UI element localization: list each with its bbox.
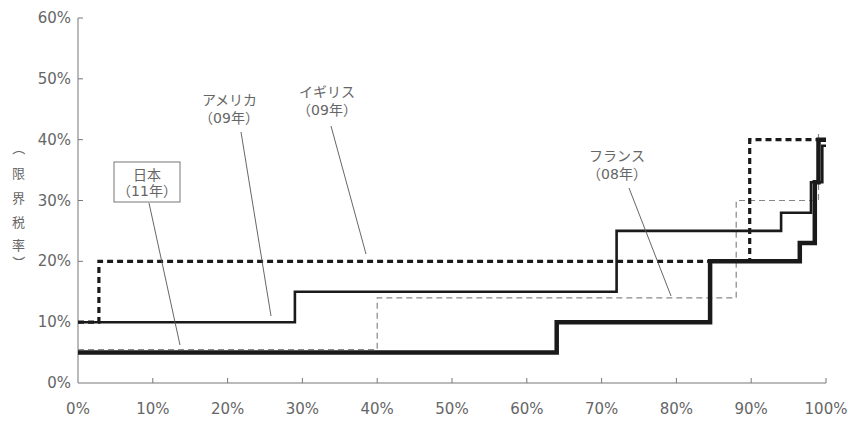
- y-tick-label: 60%: [38, 9, 71, 27]
- y-label-char: （: [11, 142, 26, 155]
- x-tick-label: 90%: [735, 400, 768, 418]
- series-annotation-label: （08年）: [587, 166, 647, 182]
- leader-line: [241, 132, 271, 316]
- x-tick-label: 80%: [660, 400, 693, 418]
- series-lines: [78, 134, 826, 353]
- y-label-char: 税: [12, 215, 25, 230]
- x-tick-label: 20%: [211, 400, 244, 418]
- series-annotations: 日本（11年）アメリカ（09年）イギリス（09年）フランス（08年）: [114, 84, 671, 345]
- y-tick-label: 40%: [38, 131, 71, 149]
- x-tick-label: 40%: [361, 400, 394, 418]
- series-annotation-label: （11年）: [117, 183, 177, 199]
- y-label-char: 界: [12, 191, 25, 206]
- y-axis-label: （限界税率）: [11, 142, 26, 269]
- y-tick-label: 0%: [47, 374, 71, 392]
- x-tick-label: 0%: [66, 400, 90, 418]
- axes: 0%10%20%30%40%50%60%70%80%90%100%0%10%20…: [38, 9, 848, 418]
- x-tick-label: 10%: [136, 400, 169, 418]
- y-tick-label: 50%: [38, 70, 71, 88]
- series-annotation-label: （09年）: [199, 110, 259, 126]
- series-line-3: [78, 134, 819, 350]
- series-annotation-label: アメリカ: [202, 92, 257, 108]
- x-tick-label: 50%: [435, 400, 468, 418]
- y-tick-label: 20%: [38, 252, 71, 270]
- leader-line: [149, 203, 180, 345]
- y-label-char: 限: [12, 166, 25, 181]
- leader-line: [331, 126, 366, 254]
- series-annotation-label: 日本: [133, 167, 161, 183]
- series-annotation-label: イギリス: [299, 84, 355, 100]
- y-tick-label: 30%: [38, 192, 71, 210]
- series-annotation-label: フランス: [589, 148, 645, 164]
- marginal-tax-rate-chart: 0%10%20%30%40%50%60%70%80%90%100%0%10%20…: [0, 0, 848, 437]
- series-annotation-label: （09年）: [297, 102, 357, 118]
- x-tick-label: 70%: [585, 400, 618, 418]
- y-tick-label: 10%: [38, 313, 71, 331]
- x-tick-label: 100%: [805, 400, 848, 418]
- y-label-char: ）: [11, 256, 26, 269]
- leader-line: [629, 188, 671, 296]
- y-label-char: 率: [12, 238, 25, 253]
- series-line-0: [78, 140, 826, 353]
- x-tick-label: 60%: [510, 400, 543, 418]
- series-line-1: [78, 146, 826, 322]
- x-tick-label: 30%: [286, 400, 319, 418]
